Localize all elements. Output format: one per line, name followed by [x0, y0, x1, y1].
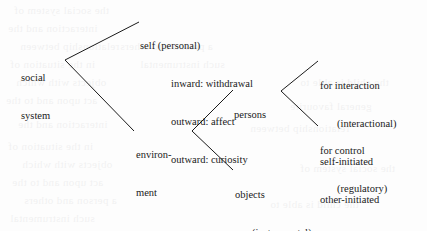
node-persons: persons	[234, 84, 266, 147]
node-self-label: self (personal)	[140, 40, 253, 53]
node-environment: environ- ment	[136, 124, 172, 225]
node-for-control-label: for control	[320, 145, 387, 158]
edge-root-to-environment	[65, 60, 134, 131]
node-social-system-line1: social	[21, 72, 50, 85]
node-environment-line2: ment	[136, 187, 172, 200]
node-objects: objects (instrumental) general favourite	[235, 164, 311, 231]
node-environment-line1: environ-	[136, 149, 172, 162]
node-for-interaction-label: for interaction	[320, 80, 396, 93]
edge-root-to-self	[65, 22, 139, 60]
node-persons-label: persons	[234, 109, 266, 122]
node-objects-paren: (instrumental)	[235, 227, 311, 231]
node-for-control: for control (regulatory)	[320, 120, 387, 221]
node-social-system: social system	[21, 47, 50, 148]
node-objects-label: objects	[235, 189, 311, 202]
node-social-system-line2: system	[21, 110, 50, 123]
edge-persons-to-interaction	[281, 61, 318, 91]
node-for-control-paren: (regulatory)	[320, 183, 387, 196]
edge-persons-to-control	[281, 91, 318, 126]
tree-diagram-canvas: the social system of interaction and the…	[0, 0, 427, 231]
